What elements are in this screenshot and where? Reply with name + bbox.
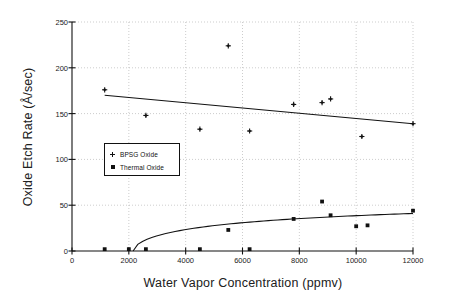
data-point — [411, 209, 415, 213]
legend-label: Thermal Oxide — [120, 164, 164, 171]
data-point — [359, 134, 364, 139]
data-point — [366, 223, 370, 227]
data-point — [320, 200, 324, 204]
series-1-points — [103, 200, 415, 251]
data-point — [292, 217, 296, 221]
plus-core — [361, 135, 364, 138]
trend-curve-series-1 — [133, 213, 413, 251]
data-point — [226, 43, 231, 48]
data-point — [319, 100, 324, 105]
plus-core — [248, 130, 251, 133]
data-point — [329, 213, 333, 217]
data-point — [127, 247, 131, 251]
legend-item-bpsg-oxide: BPSG Oxide — [110, 149, 158, 159]
data-point — [354, 224, 358, 228]
data-point — [197, 127, 202, 132]
plot-area — [0, 0, 452, 303]
trend-line-series-0 — [105, 95, 413, 123]
plus-core — [145, 114, 148, 117]
plus-core — [227, 45, 230, 48]
chart-figure: Oxide Etch Rate (Å/sec) Water Vapor Conc… — [0, 0, 452, 303]
data-point — [328, 96, 333, 101]
data-point — [103, 247, 107, 251]
legend-item-thermal-oxide: Thermal Oxide — [110, 162, 164, 172]
data-point — [248, 247, 252, 251]
data-point — [291, 102, 296, 107]
data-point — [226, 228, 230, 232]
plus-core — [412, 122, 415, 125]
data-point — [247, 128, 252, 133]
square-marker-icon — [111, 165, 115, 169]
plus-core — [321, 101, 324, 104]
data-point — [410, 121, 415, 126]
data-point — [102, 87, 107, 92]
data-point — [198, 247, 202, 251]
plus-marker-icon — [110, 152, 115, 157]
data-point — [144, 247, 148, 251]
legend-label: BPSG Oxide — [120, 151, 158, 158]
series-0-points — [102, 43, 416, 139]
plus-core — [103, 89, 106, 92]
plus-core — [329, 98, 332, 101]
plus-core — [199, 128, 202, 131]
plus-core — [292, 103, 295, 106]
chart-legend: BPSG Oxide Thermal Oxide — [104, 143, 180, 176]
